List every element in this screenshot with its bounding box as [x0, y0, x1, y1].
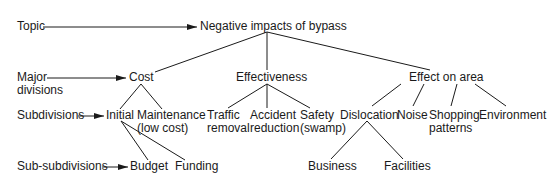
node-cost: Cost	[129, 71, 154, 84]
level-label-sub-subdivisions: Sub-subdivisions	[17, 160, 108, 173]
node-funding: Funding	[175, 160, 218, 173]
node-traffic-line2: removal	[207, 122, 250, 135]
node-maintenance-line2: (low cost)	[137, 122, 188, 135]
node-root: Negative impacts of bypass	[200, 20, 347, 33]
node-noise: Noise	[397, 109, 428, 122]
level-label-major-line2: divisions	[17, 84, 63, 97]
node-budget: Budget	[130, 160, 168, 173]
node-safety-line2: (swamp)	[300, 122, 346, 135]
node-environment: Environment	[479, 109, 546, 122]
node-effectiveness: Effectiveness	[236, 71, 307, 84]
node-accident-line2: reduction	[250, 122, 299, 135]
node-business: Business	[308, 160, 357, 173]
node-initial: Initial	[106, 109, 134, 122]
node-shopping-line2: patterns	[429, 122, 472, 135]
node-facilities: Facilities	[384, 160, 431, 173]
level-label-subdivisions: Subdivisions	[17, 109, 84, 122]
bypass-impacts-tree-diagram: Topic Major divisions Subdivisions Sub-s…	[0, 0, 554, 181]
node-effect-on-area: Effect on area	[409, 71, 484, 84]
node-dislocation: Dislocation	[340, 109, 399, 122]
level-label-topic: Topic	[17, 20, 45, 33]
